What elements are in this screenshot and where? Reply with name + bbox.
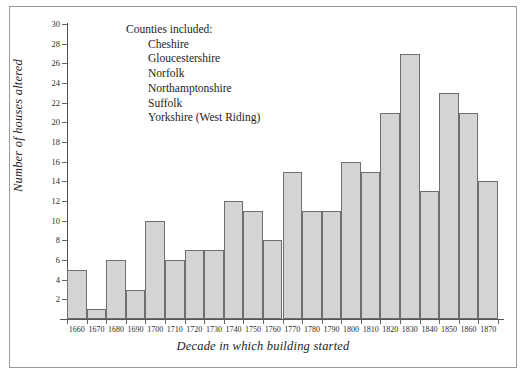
bar-1870	[478, 181, 498, 319]
x-tick-1750	[243, 320, 244, 324]
x-tick-label-1770: 1770	[284, 325, 300, 334]
x-tick-label-1870: 1870	[480, 325, 496, 334]
y-tick-label-22: 22	[38, 98, 60, 108]
bar-1860	[459, 113, 479, 320]
y-tick-label-10: 10	[38, 216, 60, 226]
bar-1730	[204, 250, 224, 319]
bar-1830	[400, 54, 420, 320]
y-tick-label-8: 8	[38, 235, 60, 245]
y-tick-label-28: 28	[38, 39, 60, 49]
x-tick-1800	[341, 320, 342, 324]
x-tick-label-1790: 1790	[323, 325, 339, 334]
bar-1690	[126, 290, 146, 320]
x-tick-label-1840: 1840	[421, 325, 437, 334]
bar-1850	[439, 93, 459, 319]
x-tick-label-1800: 1800	[343, 325, 359, 334]
y-axis-title: Number of houses altered	[11, 26, 26, 226]
y-tick-label-26: 26	[38, 58, 60, 68]
bar-1840	[420, 191, 440, 319]
bar-1700	[145, 221, 165, 319]
x-tick-1780	[302, 320, 303, 324]
x-tick-label-1690: 1690	[128, 325, 144, 334]
x-tick-label-1780: 1780	[304, 325, 320, 334]
x-tick-1760	[263, 320, 264, 324]
x-tick-label-1660: 1660	[69, 325, 85, 334]
y-tick-label-2: 2	[38, 294, 60, 304]
x-tick-end	[498, 320, 499, 324]
x-tick-label-1730: 1730	[206, 325, 222, 334]
y-tick-label-12: 12	[38, 196, 60, 206]
x-tick-1730	[204, 320, 205, 324]
y-tick-label-20: 20	[38, 117, 60, 127]
bar-1780	[302, 211, 322, 319]
x-tick-1660	[67, 320, 68, 324]
x-tick-label-1760: 1760	[265, 325, 281, 334]
bar-1740	[224, 201, 244, 319]
counties-annotation: Counties included: CheshireGloucestershi…	[126, 22, 260, 125]
x-tick-1840	[420, 320, 421, 324]
bar-1770	[283, 172, 303, 320]
x-tick-1700	[145, 320, 146, 324]
x-tick-1710	[165, 320, 166, 324]
x-tick-label-1750: 1750	[245, 325, 261, 334]
annotation-heading: Counties included:	[126, 22, 260, 37]
x-tick-1820	[380, 320, 381, 324]
bar-1750	[243, 211, 263, 319]
bar-1760	[263, 240, 283, 319]
bar-1790	[322, 211, 342, 319]
x-tick-1810	[361, 320, 362, 324]
x-tick-label-1820: 1820	[382, 325, 398, 334]
x-tick-1690	[126, 320, 127, 324]
x-tick-1870	[478, 320, 479, 324]
y-tick-label-18: 18	[38, 137, 60, 147]
y-tick-label-14: 14	[38, 176, 60, 186]
bar-1720	[185, 250, 205, 319]
chart-figure: 24681012141618202224262830 1660167016801…	[0, 0, 526, 382]
x-tick-label-1680: 1680	[108, 325, 124, 334]
x-tick-label-1700: 1700	[147, 325, 163, 334]
x-tick-label-1810: 1810	[363, 325, 379, 334]
x-tick-1790	[322, 320, 323, 324]
annotation-county-4: Suffolk	[126, 96, 260, 111]
x-tick-1720	[185, 320, 186, 324]
x-tick-1850	[439, 320, 440, 324]
x-tick-1830	[400, 320, 401, 324]
x-tick-label-1830: 1830	[402, 325, 418, 334]
annotation-county-2: Norfolk	[126, 66, 260, 81]
y-tick-label-24: 24	[38, 78, 60, 88]
y-tick-label-6: 6	[38, 255, 60, 265]
x-tick-1670	[87, 320, 88, 324]
annotation-county-1: Gloucestershire	[126, 51, 260, 66]
x-axis-title: Decade in which building started	[0, 339, 526, 354]
bar-1710	[165, 260, 185, 319]
bar-1800	[341, 162, 361, 319]
x-tick-label-1860: 1860	[461, 325, 477, 334]
annotation-county-0: Cheshire	[126, 37, 260, 52]
bar-1820	[380, 113, 400, 320]
bar-1660	[67, 270, 87, 319]
x-tick-label-1720: 1720	[186, 325, 202, 334]
x-tick-1680	[106, 320, 107, 324]
x-tick-1740	[224, 320, 225, 324]
bar-1680	[106, 260, 126, 319]
x-tick-label-1670: 1670	[88, 325, 104, 334]
x-tick-1770	[283, 320, 284, 324]
x-tick-label-1850: 1850	[441, 325, 457, 334]
x-tick-label-1710: 1710	[167, 325, 183, 334]
x-tick-1860	[459, 320, 460, 324]
y-tick-label-30: 30	[38, 19, 60, 29]
y-tick-label-16: 16	[38, 157, 60, 167]
y-tick-label-4: 4	[38, 275, 60, 285]
bar-1810	[361, 172, 381, 320]
bar-1670	[87, 309, 107, 319]
annotation-county-3: Northamptonshire	[126, 81, 260, 96]
annotation-county-5: Yorkshire (West Riding)	[126, 110, 260, 125]
x-tick-label-1740: 1740	[226, 325, 242, 334]
annotation-county-list: CheshireGloucestershireNorfolkNorthampto…	[126, 37, 260, 125]
